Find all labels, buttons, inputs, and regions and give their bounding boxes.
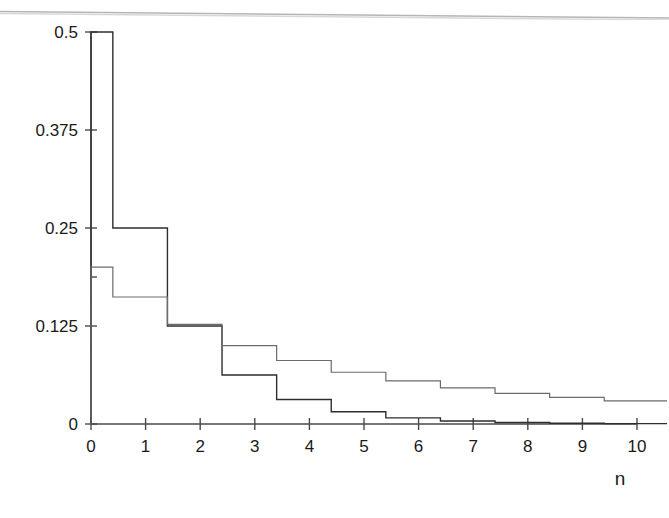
x-tick-label-0: 0 — [86, 437, 95, 456]
x-tick-label-5: 5 — [359, 437, 368, 456]
x-axis-title: n — [615, 468, 626, 489]
series-steep-distribution — [91, 32, 667, 424]
x-tick-label-7: 7 — [468, 437, 477, 456]
x-tick-label-2: 2 — [195, 437, 204, 456]
x-tick-label-1: 1 — [141, 437, 150, 456]
x-axis-tick-labels: 012345678910 — [86, 437, 646, 456]
y-tick-label-0.5: 0.5 — [54, 23, 78, 42]
chart-axes — [91, 32, 637, 424]
chart-series-group — [91, 32, 667, 424]
x-tick-label-3: 3 — [250, 437, 259, 456]
x-tick-label-4: 4 — [305, 437, 314, 456]
x-tick-label-8: 8 — [523, 437, 532, 456]
x-tick-label-6: 6 — [414, 437, 423, 456]
y-tick-label-0.25: 0.25 — [45, 219, 78, 238]
y-tick-label-0: 0 — [69, 415, 78, 434]
step-chart-plot: 012345678910 00.1250.250.3750.5 n — [0, 0, 669, 518]
y-tick-label-0.375: 0.375 — [35, 121, 78, 140]
series-flat-distribution — [91, 267, 667, 424]
x-tick-label-10: 10 — [628, 437, 647, 456]
y-tick-label-0.125: 0.125 — [35, 317, 78, 336]
x-tick-label-9: 9 — [578, 437, 587, 456]
chart-figure: 012345678910 00.1250.250.3750.5 n — [0, 0, 669, 518]
y-axis-tick-labels: 00.1250.250.3750.5 — [35, 23, 78, 434]
